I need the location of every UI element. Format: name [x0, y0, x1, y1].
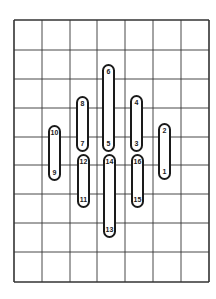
pill-top-label: 6	[102, 68, 115, 76]
pill-bottom-label: 11	[77, 196, 90, 204]
pill-top-label: 2	[158, 127, 171, 135]
pill-14-13: 1413	[103, 154, 116, 238]
pill-12-11: 1211	[77, 154, 90, 208]
pill-8-7: 87	[76, 96, 89, 152]
pill-6-5: 65	[102, 64, 115, 152]
pill-bottom-label: 3	[130, 140, 143, 148]
pill-16-15: 1615	[131, 154, 144, 208]
pill-top-label: 10	[48, 129, 61, 137]
pill-2-1: 21	[158, 123, 171, 180]
pill-bottom-label: 15	[131, 196, 144, 204]
pill-10-9: 109	[48, 125, 61, 181]
pill-bottom-label: 5	[102, 140, 115, 148]
pill-4-3: 43	[130, 95, 143, 152]
pill-top-label: 8	[76, 100, 89, 108]
pill-bottom-label: 13	[103, 226, 116, 234]
pill-top-label: 16	[131, 158, 144, 166]
pill-bottom-label: 1	[158, 168, 171, 176]
pill-bottom-label: 7	[76, 140, 89, 148]
pill-top-label: 12	[77, 158, 90, 166]
pill-top-label: 14	[103, 158, 116, 166]
pill-bottom-label: 9	[48, 169, 61, 177]
pill-top-label: 4	[130, 99, 143, 107]
